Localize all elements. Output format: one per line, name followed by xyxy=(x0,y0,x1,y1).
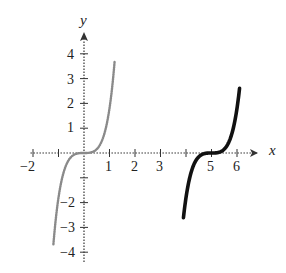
x-tick-label: 1 xyxy=(105,160,112,174)
y-tick-label: 4 xyxy=(67,48,74,62)
y-axis-label: y xyxy=(80,13,87,28)
translated-cubic-curve xyxy=(183,88,239,217)
x-tick-label: 2 xyxy=(131,160,138,174)
x-tick-label: 5 xyxy=(207,160,214,174)
y-tick-label: 3 xyxy=(67,73,74,87)
x-tick-label: 6 xyxy=(233,160,240,174)
x-tick-label: −2 xyxy=(20,160,35,174)
y-tick-label: 1 xyxy=(67,121,74,135)
x-tick-label: 3 xyxy=(156,160,163,174)
cubic-translation-chart xyxy=(0,0,286,273)
y-tick-label: −4 xyxy=(60,246,75,260)
x-axis-arrow-icon xyxy=(250,149,258,157)
y-tick-label: 2 xyxy=(67,97,74,111)
series-group xyxy=(53,62,239,245)
y-tick-label: −2 xyxy=(60,196,75,210)
x-axis-label: x xyxy=(269,143,276,158)
y-tick-label: −3 xyxy=(60,221,75,235)
